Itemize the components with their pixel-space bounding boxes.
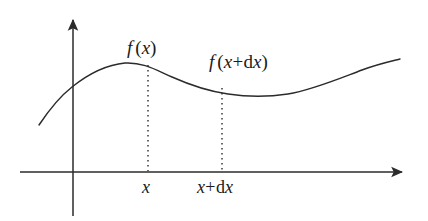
x-axis-tick-label-x: x — [142, 178, 150, 196]
tick-xdx-plus: + — [205, 177, 216, 197]
figure-container: f(x) f(x+dx) x x+dx — [0, 0, 428, 221]
label-fx-f: f — [127, 37, 132, 58]
tick-xdx-dx-x: x — [225, 177, 233, 197]
tick-xdx-x: x — [197, 177, 205, 197]
tick-x-x: x — [142, 177, 150, 197]
label-fx-x: x — [142, 37, 150, 58]
label-f-of-x: f(x) — [127, 38, 156, 57]
label-fxdx-plus: + — [232, 51, 243, 72]
label-fxdx-f: f — [209, 51, 214, 72]
label-fxdx-x: x — [224, 51, 232, 72]
label-f-of-x-plus-dx: f(x+dx) — [209, 52, 268, 71]
label-fx-close-paren: ) — [150, 37, 156, 58]
x-axis-tick-label-x-plus-dx: x+dx — [197, 178, 233, 196]
label-fxdx-close-paren: ) — [261, 51, 267, 72]
label-fxdx-d: d — [244, 51, 254, 72]
tick-xdx-d: d — [216, 177, 225, 197]
